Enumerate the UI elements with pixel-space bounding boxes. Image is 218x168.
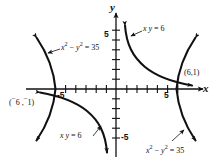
x-axis-tick-label-positive-5: 5 <box>164 91 169 100</box>
leader-hyperbola-upper-left <box>48 49 60 53</box>
label-xy-lower-left: x y = 6 <box>60 132 82 140</box>
hyperbola-graph-figure: x y -5 5 5 -5 x2 − y2 = 35 x y = 6 x y =… <box>0 0 218 168</box>
point-label-right: (6,1) <box>184 69 199 77</box>
point-label-left: (−6 ,−1) <box>9 99 34 107</box>
label-xy-upper-right: x y = 6 <box>143 25 165 33</box>
y-axis-label: y <box>110 2 115 13</box>
curve-xy-equals-6-branch-2 <box>40 93 107 153</box>
x-axis-label: x <box>203 83 209 94</box>
leader-xy-lower-left <box>93 126 101 136</box>
leader-xy-upper-right <box>131 31 142 36</box>
x-axis-tick-label-negative-5: -5 <box>57 91 65 100</box>
leader-hyperbola-lower-right <box>172 130 184 141</box>
label-hyperbola-upper-left: x2 − y2 = 35 <box>61 44 99 52</box>
y-axis-tick-label-positive-5: 5 <box>104 30 109 39</box>
y-axis-tick-label-negative-5: -5 <box>121 133 129 142</box>
label-hyperbola-lower-right: x2 − y2 = 35 <box>146 147 184 155</box>
graph-canvas <box>0 0 218 168</box>
